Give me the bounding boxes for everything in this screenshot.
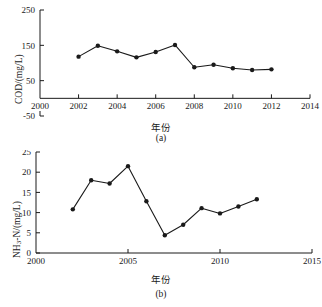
chart-a-y-axis-label: COD/(mg/L) — [14, 54, 24, 104]
figure-container: -505015025020002002200420062008201020122… — [0, 0, 322, 307]
svg-text:10: 10 — [22, 208, 32, 218]
svg-text:2005: 2005 — [119, 256, 138, 266]
svg-text:2008: 2008 — [185, 101, 204, 111]
chart-a-x-axis-label: 年份 — [0, 120, 322, 134]
svg-text:150: 150 — [22, 41, 36, 51]
svg-text:15: 15 — [22, 188, 32, 198]
svg-text:2006: 2006 — [147, 101, 166, 111]
chart-panel-b: 05101520252000200520102015 NH3-N/(mg/L) … — [0, 150, 322, 307]
chart-b-y-axis-label: NH3-N/(mg/L) — [12, 201, 23, 258]
chart-panel-a: -505015025020002002200420062008201020122… — [0, 0, 322, 150]
svg-text:250: 250 — [22, 5, 36, 15]
svg-text:50: 50 — [26, 76, 36, 86]
svg-text:2012: 2012 — [262, 101, 280, 111]
svg-text:2010: 2010 — [224, 101, 243, 111]
svg-text:2004: 2004 — [108, 101, 127, 111]
svg-text:25: 25 — [22, 150, 32, 157]
chart-a-subcaption: (a) — [0, 133, 322, 143]
chart-b-x-axis-label: 年份 — [0, 272, 322, 286]
chart-b-subcaption: (b) — [0, 289, 322, 299]
svg-text:2000: 2000 — [27, 256, 46, 266]
svg-text:20: 20 — [22, 167, 32, 177]
svg-text:2002: 2002 — [70, 101, 88, 111]
svg-text:2014: 2014 — [301, 101, 320, 111]
svg-text:2010: 2010 — [211, 256, 230, 266]
svg-text:2015: 2015 — [303, 256, 322, 266]
svg-text:5: 5 — [27, 228, 32, 238]
svg-text:2000: 2000 — [31, 101, 50, 111]
chart-b-plot-area: 05101520252000200520102015 — [0, 150, 322, 268]
